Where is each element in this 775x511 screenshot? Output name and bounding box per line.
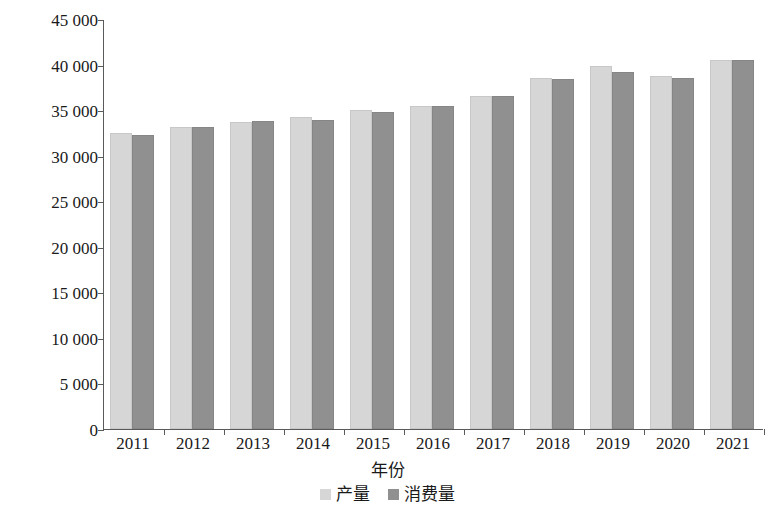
bar-production — [110, 133, 132, 429]
bar-consumption — [492, 96, 514, 429]
bar-group — [644, 20, 704, 429]
x-axis-tick-label: 2015 — [343, 434, 403, 454]
bar-group — [104, 20, 164, 429]
bar-production — [410, 106, 432, 429]
legend-label: 消费量 — [404, 486, 455, 503]
legend-label: 产量 — [336, 486, 370, 503]
bar-production — [530, 78, 552, 429]
bar-group — [464, 20, 524, 429]
x-axis-tick-label: 2012 — [163, 434, 223, 454]
bar-production — [590, 66, 612, 429]
x-axis-tick-labels: 2011201220132014201520162017201820192020… — [103, 434, 763, 458]
bar-group — [284, 20, 344, 429]
bar-production — [170, 127, 192, 429]
chart-legend: 产量消费量 — [0, 486, 775, 503]
y-axis-tick-label: 0 — [20, 422, 98, 439]
y-axis-tick-label: 5 000 — [20, 376, 98, 393]
bar-production — [650, 76, 672, 429]
x-axis-title: 年份 — [0, 456, 775, 481]
bar-consumption — [612, 72, 634, 429]
legend-entry: 产量 — [320, 486, 370, 503]
y-axis-tick-label: 20 000 — [20, 240, 98, 257]
bar-production — [470, 96, 492, 429]
y-axis-tick-label: 45 000 — [20, 12, 98, 29]
y-axis-tick-mark — [98, 430, 104, 431]
x-axis-tick-label: 2017 — [463, 434, 523, 454]
bar-production — [290, 117, 312, 430]
bar-consumption — [252, 121, 274, 429]
y-axis-tick-label: 10 000 — [20, 331, 98, 348]
y-axis-tick-labels: 05 00010 00015 00020 00025 00030 00035 0… — [20, 0, 98, 440]
x-axis-tick-label: 2011 — [103, 434, 163, 454]
x-axis-tick-label: 2013 — [223, 434, 283, 454]
legend-entry: 消费量 — [388, 486, 455, 503]
bar-production — [230, 122, 252, 429]
bar-group — [164, 20, 224, 429]
bar-consumption — [312, 120, 334, 429]
bar-production — [350, 110, 372, 429]
legend-swatch-consumption — [388, 489, 399, 500]
y-axis-tick-label: 30 000 — [20, 149, 98, 166]
bar-production — [710, 60, 732, 429]
y-axis-tick-label: 35 000 — [20, 103, 98, 120]
plot-area — [103, 20, 763, 430]
bar-group — [224, 20, 284, 429]
bar-group — [344, 20, 404, 429]
x-axis-tick-mark — [764, 429, 765, 435]
y-axis-tick-label: 15 000 — [20, 285, 98, 302]
bar-group — [704, 20, 764, 429]
bar-consumption — [372, 112, 394, 429]
bar-chart-figure: 亿立方米 05 00010 00015 00020 00025 00030 00… — [0, 0, 775, 511]
bar-group — [524, 20, 584, 429]
legend-swatch-production — [320, 489, 331, 500]
bar-group — [584, 20, 644, 429]
y-axis-tick-label: 25 000 — [20, 194, 98, 211]
x-axis-tick-label: 2019 — [583, 434, 643, 454]
bar-consumption — [732, 60, 754, 429]
x-axis-tick-label: 2018 — [523, 434, 583, 454]
x-axis-tick-label: 2020 — [643, 434, 703, 454]
bar-group — [404, 20, 464, 429]
x-axis-tick-label: 2014 — [283, 434, 343, 454]
bar-consumption — [192, 127, 214, 429]
x-axis-tick-label: 2021 — [703, 434, 763, 454]
bar-consumption — [132, 135, 154, 429]
bar-consumption — [432, 106, 454, 429]
bar-consumption — [552, 79, 574, 429]
x-axis-tick-label: 2016 — [403, 434, 463, 454]
bar-consumption — [672, 78, 694, 429]
y-axis-tick-label: 40 000 — [20, 58, 98, 75]
